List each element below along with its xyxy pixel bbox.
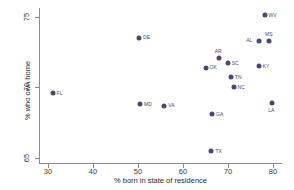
data-point xyxy=(231,85,236,90)
data-points-layer: WVMSALDEARSCOKKYTNNCFLLAMDVAGATX xyxy=(40,8,282,163)
data-point xyxy=(216,55,221,60)
data-point xyxy=(256,64,261,69)
data-point-label: AR xyxy=(215,49,222,54)
data-point-label: MS xyxy=(265,32,273,37)
data-point-label: TX xyxy=(215,149,222,154)
data-point xyxy=(257,38,262,43)
data-point xyxy=(203,65,208,70)
data-point xyxy=(262,13,267,18)
data-point-label: SC xyxy=(232,61,239,66)
x-tick-label: 60 xyxy=(179,167,187,176)
y-axis-label: % who own home xyxy=(23,36,32,146)
data-point xyxy=(209,149,214,154)
x-tick-label: 40 xyxy=(89,167,97,176)
plot-frame: WVMSALDEARSCOKKYTNNCFLLAMDVAGATX xyxy=(39,8,282,164)
x-axis-label: % born in state of residence xyxy=(39,176,282,185)
y-tick-label: 65 xyxy=(22,154,31,162)
data-point xyxy=(225,61,230,66)
data-point xyxy=(137,102,142,107)
data-point-label: FL xyxy=(57,91,63,96)
data-point-label: OK xyxy=(210,65,217,70)
data-point-label: MD xyxy=(144,102,152,107)
data-point-label: VA xyxy=(168,103,175,108)
data-point xyxy=(50,91,55,96)
data-point-label: GA xyxy=(216,112,223,117)
data-point-label: AL xyxy=(246,38,252,43)
data-point-label: TN xyxy=(235,75,242,80)
x-tick-label: 70 xyxy=(224,167,232,176)
data-point xyxy=(267,38,272,43)
data-point-label: NC xyxy=(238,85,245,90)
y-tick-label: 75 xyxy=(22,12,31,20)
data-point-label: DE xyxy=(143,35,150,40)
x-tick-label: 50 xyxy=(134,167,142,176)
data-point xyxy=(209,112,214,117)
data-point-label: LA xyxy=(268,108,274,113)
y-tick-mark xyxy=(35,87,39,88)
x-tick-label: 80 xyxy=(269,167,277,176)
data-point-label: WV xyxy=(269,13,277,18)
y-tick-mark xyxy=(35,17,39,18)
data-point xyxy=(162,103,167,108)
x-tick-label: 30 xyxy=(44,167,52,176)
y-tick-mark xyxy=(35,158,39,159)
data-point xyxy=(270,101,275,106)
data-point xyxy=(228,75,233,80)
data-point xyxy=(137,35,142,40)
scatter-plot: WVMSALDEARSCOKKYTNNCFLLAMDVAGATX 657075 … xyxy=(0,0,294,190)
data-point-label: KY xyxy=(263,64,270,69)
